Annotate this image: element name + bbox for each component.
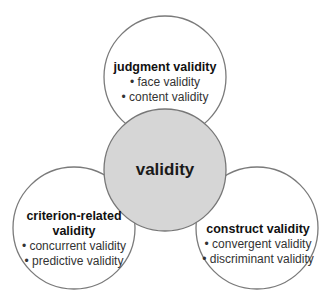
concurrent-validity-item: • concurrent validity (8, 239, 140, 254)
predictive-validity-item: • predictive validity (8, 254, 140, 269)
validity-center-label: validity (115, 160, 215, 180)
judgment-validity-title: judgment validity (105, 60, 225, 75)
construct-validity-title: construct validity (193, 222, 323, 237)
criterion-related-validity-node: criterion-related validity • concurrent … (8, 209, 140, 269)
discriminant-validity-item: • discriminant validity (193, 252, 323, 267)
construct-validity-node: construct validity • convergent validity… (193, 222, 323, 267)
content-validity-item: • content validity (105, 90, 225, 105)
face-validity-item: • face validity (105, 75, 225, 90)
judgment-validity-node: judgment validity • face validity • cont… (105, 60, 225, 105)
criterion-related-title-line2: validity (8, 224, 140, 239)
convergent-validity-item: • convergent validity (193, 237, 323, 252)
criterion-related-title-line1: criterion-related (8, 209, 140, 224)
